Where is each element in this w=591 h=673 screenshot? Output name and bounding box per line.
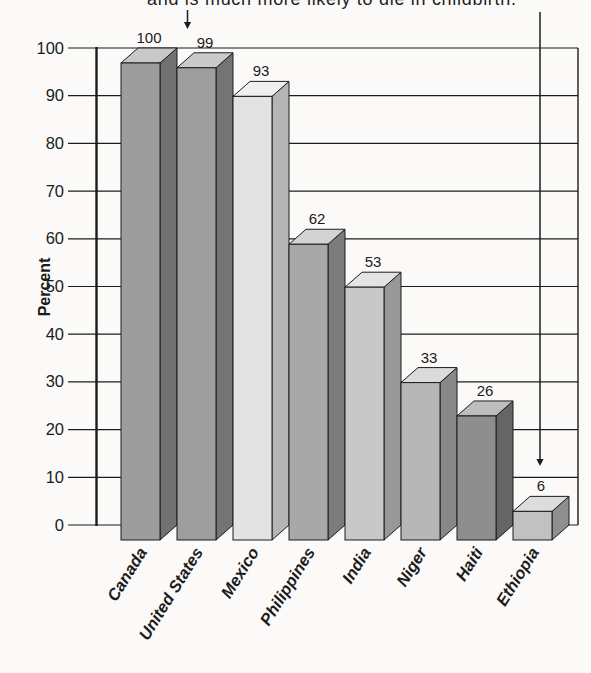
bar-value-label-niger: 33 [421,349,438,366]
y-tick-label-30: 30 [46,372,64,390]
bar-chart-3d: 0102030405060708090100Percent100Canada99… [0,0,591,673]
x-category-label-philippines: Philippines [256,544,318,628]
y-tick-label-100: 100 [36,39,64,57]
bar-value-label-mexico: 93 [253,62,270,79]
bar-value-label-united-states: 99 [197,34,214,51]
bar-front-face-canada [121,63,160,540]
bar-front-face-philippines [289,244,328,540]
x-category-label-mexico: Mexico [217,544,262,601]
bar-value-label-india: 53 [365,253,382,270]
bar-side-face-haiti [496,401,513,540]
bar-value-label-philippines: 62 [309,210,326,227]
x-category-label-india: India [338,544,374,586]
x-category-label-canada: Canada [103,544,150,604]
y-tick-label-80: 80 [46,134,64,152]
y-tick-label-60: 60 [46,229,64,247]
y-tick-label-20: 20 [46,420,64,438]
bar-side-face-mexico [272,81,289,540]
bar-value-label-ethiopia: 6 [537,477,545,494]
y-tick-label-40: 40 [46,325,64,343]
bar-side-face-niger [440,368,457,540]
bar-front-face-niger [401,383,440,540]
bar-front-face-ethiopia [513,511,552,540]
x-category-label-haiti: Haiti [452,544,486,584]
bar-front-face-haiti [457,416,496,540]
bar-side-face-india [384,272,401,540]
bar-front-face-united-states [177,68,216,540]
y-tick-label-10: 10 [46,468,64,486]
figure-page: and is much more likely to die in childb… [0,0,591,673]
bar-side-face-united-states [216,53,233,540]
x-category-label-niger: Niger [392,543,430,590]
y-tick-label-0: 0 [55,516,64,534]
bar-value-label-canada: 100 [136,29,161,46]
y-axis-title: Percent [36,257,53,316]
bar-front-face-india [345,287,384,540]
bar-front-face-mexico [233,96,272,540]
bar-value-label-haiti: 26 [477,382,494,399]
y-tick-label-70: 70 [46,182,64,200]
y-tick-label-90: 90 [46,86,64,104]
bar-side-face-canada [160,48,177,540]
bar-side-face-philippines [328,229,345,540]
x-category-label-ethiopia: Ethiopia [492,544,542,609]
arrow-to-ethiopia-arrowhead-icon [536,459,543,466]
arrow-to-united-states-arrowhead-icon [184,22,191,29]
